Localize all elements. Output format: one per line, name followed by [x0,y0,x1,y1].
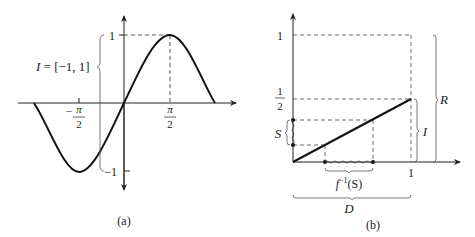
x-label-1: 1 [408,166,414,180]
brace-finv [325,168,373,173]
caption-a: (a) [117,214,130,228]
brace-d [293,195,411,200]
panel-a: 1 −1 I = [−1, 1] − π 2 π 2 (a) [18,16,236,228]
pos-two: 2 [167,118,173,130]
interval-label: I = [−1, 1] [35,59,90,74]
neg-sign: − [66,105,72,117]
label-r: R [439,92,448,107]
label-s: S [275,126,282,141]
panel-b: 1 1 2 1 S I R D f−1(S) (b) [275,14,460,232]
y-label-1: 1 [109,29,115,43]
brace-i [414,99,419,162]
caption-b: (b) [366,218,380,232]
y-label-half-den: 2 [277,100,283,112]
label-d: D [343,201,354,216]
y-label-half-num: 1 [277,85,283,97]
label-preimage: f−1(S) [336,176,363,191]
brace-s [285,120,290,145]
y-label-neg1: −1 [104,165,117,179]
linear-function-line [293,99,411,162]
label-i: I [422,124,428,139]
pos-pi: π [167,103,173,115]
figure: 1 −1 I = [−1, 1] − π 2 π 2 (a) [0,0,475,237]
neg-two: 2 [76,118,82,130]
brace-r [433,35,438,162]
dashed-guides [293,35,411,162]
neg-pi: π [76,103,82,115]
y-label-1: 1 [277,29,283,43]
